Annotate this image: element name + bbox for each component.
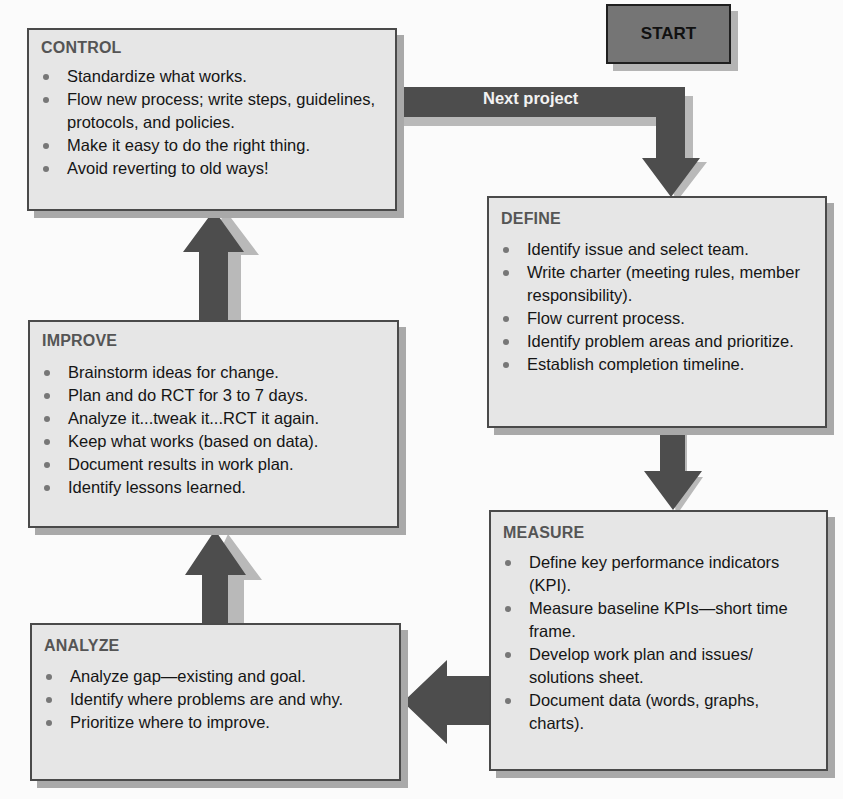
list-item: Analyze gap—existing and goal. [44, 665, 387, 688]
list-item: Measure baseline KPIs—short time frame. [503, 597, 814, 643]
start-node: START [606, 4, 731, 64]
step-title: MEASURE [503, 524, 814, 542]
step-items: Standardize what works. Flow new process… [41, 65, 383, 180]
step-title: ANALYZE [44, 637, 387, 655]
list-item: Document data (words, graphs, charts). [503, 689, 814, 735]
list-item: Identify problem areas and prioritize. [501, 330, 813, 353]
list-item: Document results in work plan. [42, 453, 385, 476]
list-item: Establish completion timeline. [501, 353, 813, 376]
define-to-measure-arrow [644, 427, 702, 510]
list-item: Brainstorm ideas for change. [42, 361, 385, 384]
list-item: Identify issue and select team. [501, 238, 813, 261]
list-item: Identify lessons learned. [42, 476, 385, 499]
step-items: Analyze gap—existing and goal. Identify … [44, 665, 387, 734]
list-item: Analyze it...tweak it...RCT it again. [42, 407, 385, 430]
list-item: Write charter (meeting rules, member res… [501, 261, 813, 307]
list-item: Standardize what works. [41, 65, 383, 88]
step-items: Brainstorm ideas for change. Plan and do… [42, 361, 385, 499]
step-title: CONTROL [41, 39, 383, 57]
step-measure: MEASURE Define key performance indicator… [489, 510, 828, 771]
step-define: DEFINE Identify issue and select team. W… [487, 196, 827, 428]
list-item: Flow current process. [501, 307, 813, 330]
list-item: Prioritize where to improve. [44, 711, 387, 734]
next-project-label: Next project [483, 89, 578, 108]
measure-to-analyze-arrow [403, 660, 489, 744]
list-item: Make it easy to do the right thing. [41, 134, 383, 157]
step-analyze: ANALYZE Analyze gap—existing and goal. I… [30, 623, 401, 781]
list-item: Avoid reverting to old ways! [41, 157, 383, 180]
list-item: Develop work plan and issues/ solutions … [503, 643, 814, 689]
step-items: Define key performance indicators (KPI).… [503, 551, 814, 735]
step-improve: IMPROVE Brainstorm ideas for change. Pla… [28, 320, 399, 528]
list-item: Keep what works (based on data). [42, 430, 385, 453]
step-title: IMPROVE [42, 332, 385, 350]
start-label: START [641, 24, 696, 44]
step-control: CONTROL Standardize what works. Flow new… [27, 28, 397, 211]
step-items: Identify issue and select team. Write ch… [501, 238, 813, 376]
list-item: Plan and do RCT for 3 to 7 days. [42, 384, 385, 407]
list-item: Flow new process; write steps, guideline… [41, 88, 383, 134]
list-item: Identify where problems are and why. [44, 688, 387, 711]
list-item: Define key performance indicators (KPI). [503, 551, 814, 597]
step-title: DEFINE [501, 210, 813, 228]
